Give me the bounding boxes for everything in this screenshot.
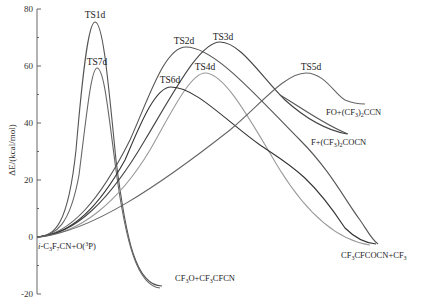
y-tick-0: 0 <box>29 232 34 242</box>
label-ts5d: TS5d <box>301 62 322 72</box>
label-product-cf3cfcocn-cf3: CF3CFCOCN+CF3 <box>341 250 407 261</box>
y-axis-label: ΔE/(kcal/mol) <box>7 124 17 175</box>
path-ts5d <box>37 73 365 237</box>
label-ts7d: TS7d <box>87 57 108 67</box>
label-reactant: i-C3F7CN+O(3P) <box>38 241 96 252</box>
y-tick-80: 80 <box>24 4 34 14</box>
y-tick-60: 60 <box>24 61 34 71</box>
path-ts4d <box>37 73 370 245</box>
label-ts1d: TS1d <box>85 10 106 20</box>
label-product-fo-cf3-2ccn: FO+(CF3)2CCN <box>326 107 381 118</box>
label-product-f-cf3-2cocn: F+(CF3)2COCN <box>311 137 366 148</box>
label-ts3d: TS3d <box>213 32 234 42</box>
label-ts4d: TS4d <box>195 62 216 72</box>
label-ts2d: TS2d <box>174 36 195 46</box>
y-tick-40: 40 <box>24 118 34 128</box>
energy-profile-chart: 80 60 40 20 0 -20 ΔE/(kcal/mol) TS1d TS7… <box>0 0 422 304</box>
label-product-cf3o-cf3cfcn: CF3O+CF3CFCN <box>175 273 235 284</box>
path-ts7d <box>37 68 160 288</box>
label-ts6d: TS6d <box>160 75 181 85</box>
y-tick-minus-20: -20 <box>21 289 33 299</box>
y-tick-20: 20 <box>24 175 34 185</box>
y-ticks <box>37 9 41 294</box>
